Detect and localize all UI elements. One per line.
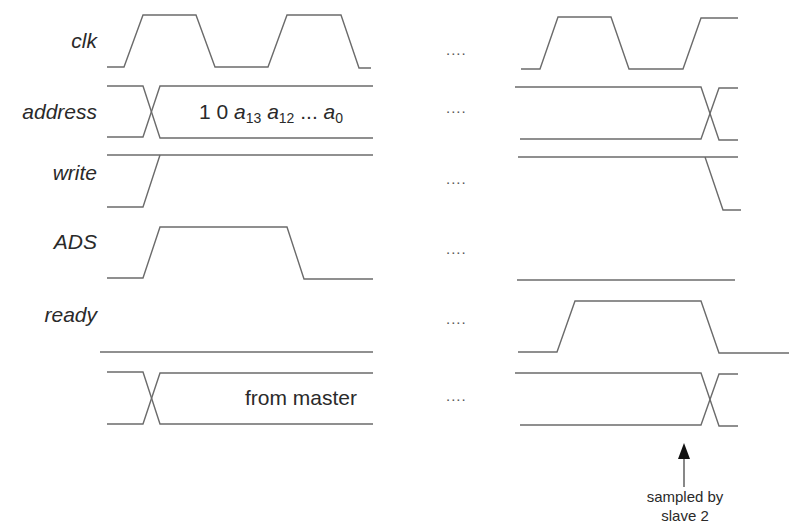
data-bus-value: from master [245, 386, 357, 410]
signal-label-ready: ready [44, 303, 97, 327]
ellipsis-address: .... [446, 99, 467, 116]
address-bit-a13-sub: 13 [246, 110, 262, 126]
waveforms [0, 0, 794, 530]
waveform-write-right [518, 157, 741, 210]
waveform-data-right-bot [520, 374, 738, 425]
address-dots: ... [294, 100, 323, 123]
ellipsis-ready: .... [446, 310, 467, 327]
address-bit-a0: a [324, 100, 336, 123]
waveform-ads-left [107, 227, 373, 279]
waveform-data-right-top [515, 373, 738, 426]
signal-label-address: address [22, 100, 97, 124]
ellipsis-data: .... [446, 387, 467, 404]
address-bit-a12: a [267, 100, 279, 123]
waveform-write-left-bot [107, 155, 160, 207]
waveform-ready-right [518, 301, 789, 353]
annotation-line-2: slave 2 [630, 506, 740, 525]
ellipsis-write: .... [446, 170, 467, 187]
ellipsis-ads: .... [446, 240, 467, 257]
waveform-address-right-bot [520, 88, 738, 139]
timing-diagram: clk address write ADS ready 1 0 a13 a12 … [0, 0, 794, 530]
address-bus-value: 1 0 a13 a12 ... a0 [199, 100, 343, 126]
address-bit-a0-sub: 0 [335, 110, 343, 126]
ellipsis-clk: .... [446, 41, 467, 58]
sample-annotation: sampled by slave 2 [630, 487, 740, 525]
annotation-line-1: sampled by [630, 487, 740, 506]
waveform-clk-right [521, 17, 738, 69]
waveform-address-right-top [515, 87, 738, 140]
address-bit-a12-sub: 12 [279, 110, 295, 126]
sample-arrow-icon [678, 443, 690, 487]
address-bit-a13: a [234, 100, 246, 123]
signal-label-ads: ADS [54, 230, 97, 254]
waveform-clk-left [107, 15, 371, 68]
address-prefix: 1 0 [199, 100, 234, 123]
signal-label-write: write [53, 161, 97, 185]
signal-label-clk: clk [71, 29, 97, 53]
